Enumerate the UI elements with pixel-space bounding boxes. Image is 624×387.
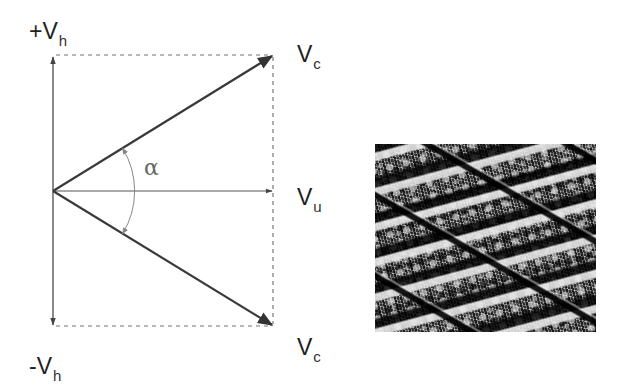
label-plus-vh: +Vh	[29, 20, 67, 43]
label-plus-vh-main: +V	[29, 18, 58, 44]
label-vu-main: V	[297, 184, 312, 210]
label-vc-bottom-sub: c	[313, 348, 321, 365]
surface-micrograph-image	[375, 144, 596, 332]
label-minus-vh-sub: h	[53, 367, 61, 384]
label-vu-sub: u	[313, 198, 321, 215]
label-minus-vh-main: -V	[29, 353, 52, 379]
vc-lower-vector	[53, 191, 272, 325]
micrograph-contrast-overlay	[375, 144, 596, 332]
label-vc-top-sub: c	[313, 55, 321, 72]
label-vc-bottom-main: V	[297, 334, 312, 360]
angle-alpha-label: α	[144, 157, 159, 179]
vc-upper-vector	[53, 56, 272, 191]
label-vc-top-main: V	[297, 41, 312, 67]
label-vc-bottom: Vc	[297, 336, 321, 359]
label-vu: Vu	[297, 186, 322, 209]
label-vc-top: Vc	[297, 43, 321, 66]
label-minus-vh: -Vh	[29, 355, 61, 378]
label-plus-vh-sub: h	[59, 32, 67, 49]
